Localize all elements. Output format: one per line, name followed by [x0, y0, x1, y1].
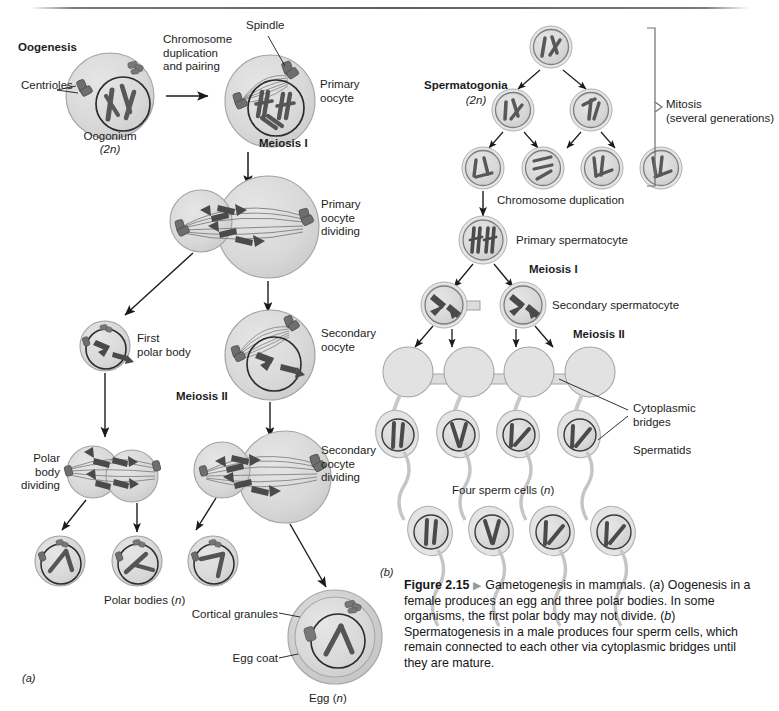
cell-spermatogonium-g3-3: [581, 147, 623, 189]
label-cytoplasmic-bridges: Cytoplasmic bridges: [633, 402, 696, 429]
label-meiosis-i-sperm: Meiosis I: [529, 263, 578, 277]
label-spermatogonia-ploidy: (2n): [424, 94, 528, 108]
label-chromosome-duplication-sperm: Chromosome duplication: [497, 194, 624, 208]
arrow-to-first-polar-body: [125, 253, 193, 315]
cell-primary-oocyte-dividing: [170, 176, 319, 278]
label-meiosis-ii-oogenesis: Meiosis II: [176, 390, 228, 404]
cell-polar-body-b: [112, 536, 162, 586]
label-primary-oocyte-dividing: Primary oocyte dividing: [321, 198, 361, 239]
cell-secondary-oocyte-dividing: [194, 431, 331, 523]
arrow-mitosis-1: [518, 70, 540, 89]
label-secondary-spermatocyte: Secondary spermatocyte: [552, 299, 679, 313]
cell-spermatogonium-g2-right: [570, 89, 612, 131]
cell-primary-spermatocyte: [459, 216, 507, 264]
label-primary-oocyte: Primary oocyte: [320, 78, 360, 105]
arrow-meiosis-i-right: [494, 264, 513, 287]
label-primary-spermatocyte: Primary spermatocyte: [516, 234, 628, 248]
label-egg-coat: Egg coat: [194, 652, 278, 666]
figure-caption: Figure 2.15 ▶ Gametogenesis in mammals. …: [404, 578, 756, 672]
arrow-mitosis-4: [524, 132, 538, 148]
cells-spermatids-round: [383, 347, 615, 397]
label-polar-bodies: Polar bodies (n): [104, 594, 185, 608]
arrow-to-polar-body-3: [196, 498, 216, 530]
arrow-to-egg: [290, 524, 326, 587]
cell-oogonium: [57, 53, 154, 139]
arrow-meiosis-i-left: [454, 264, 473, 287]
label-oogonium: Oogonium: [62, 130, 158, 144]
label-mitosis: Mitosis (several generations): [666, 98, 774, 125]
cell-spermatogonium-g3-2: [522, 147, 564, 189]
label-meiosis-ii-sperm: Meiosis II: [573, 328, 625, 342]
cell-primary-oocyte: [225, 36, 315, 147]
cell-secondary-oocyte: [225, 310, 315, 400]
panel-a-label: (a): [22, 672, 35, 686]
label-centrioles: Centrioles: [21, 79, 73, 93]
cell-spermatogonium-stem: [530, 26, 572, 68]
figure-gametogenesis: Oogenesis Centrioles Oogonium (2n) Chrom…: [0, 0, 779, 711]
label-egg: Egg (n): [309, 692, 347, 706]
arrow-mitosis-3: [489, 132, 503, 148]
cell-spermatogonium-g3-4: [640, 147, 682, 189]
cell-spermatogonium-g3-1: [462, 147, 504, 189]
cell-polar-body-dividing: [64, 446, 161, 502]
figure-number: Figure 2.15: [404, 578, 469, 592]
cells-spermatids-elongating: [370, 379, 628, 520]
cell-polar-body-c: [188, 536, 238, 586]
arrow-meiosis-ii-1: [415, 326, 433, 347]
label-four-sperm-cells: Four sperm cells (n): [452, 484, 554, 498]
arrow-meiosis-ii-4: [535, 326, 553, 347]
label-spermatogonia: Spermatogonia: [424, 79, 508, 93]
label-meiosis-i-oogenesis: Meiosis I: [259, 137, 308, 151]
label-first-polar-body: First polar body: [137, 332, 191, 359]
cells-secondary-spermatocyte: [421, 282, 546, 328]
label-spindle: Spindle: [246, 19, 284, 33]
label-secondary-oocyte-dividing: Secondary oocyte dividing: [321, 444, 376, 485]
label-secondary-oocyte: Secondary oocyte: [321, 327, 376, 354]
arrow-mitosis-2: [563, 70, 586, 89]
label-cortical-granules: Cortical granules: [162, 608, 278, 622]
label-spermatids: Spermatids: [633, 444, 691, 458]
arrow-mitosis-6: [601, 132, 615, 148]
label-chromosome-duplication: Chromosome duplication and pairing: [163, 33, 232, 74]
label-oogonium-ploidy: (2n): [62, 143, 158, 157]
caption-marker-icon: ▶: [473, 579, 482, 591]
cell-first-polar-body: [80, 321, 134, 371]
arrow-to-polar-body-1: [62, 500, 86, 530]
panel-b-label: (b): [380, 566, 393, 580]
cell-polar-body-a: [35, 536, 85, 586]
arrow-mitosis-5: [567, 132, 581, 148]
oogenesis-heading: Oogenesis: [18, 41, 77, 55]
label-polar-body-dividing: Polar body dividing: [0, 452, 60, 493]
cell-egg: [279, 590, 382, 684]
